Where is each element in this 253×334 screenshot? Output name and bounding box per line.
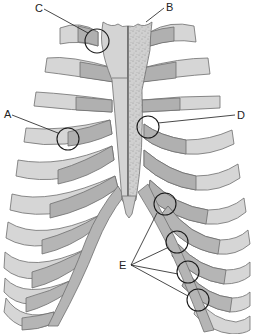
leader-e2 (131, 248, 167, 265)
label-d: D (237, 110, 245, 121)
leader-b (146, 8, 164, 22)
rib-cage-diagram (0, 0, 253, 334)
right-ribs (138, 24, 250, 334)
left-ribs (4, 25, 124, 330)
leader-e1 (131, 213, 157, 265)
label-a: A (4, 109, 11, 120)
label-b: B (166, 2, 173, 13)
leader-e3 (131, 265, 178, 274)
label-e: E (119, 260, 126, 271)
label-c: C (35, 3, 43, 14)
leader-d (158, 115, 235, 123)
